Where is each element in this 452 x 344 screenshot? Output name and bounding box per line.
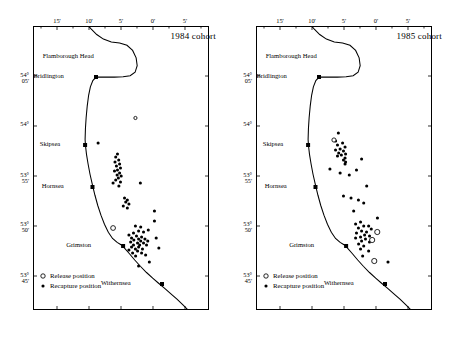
recapture-point — [328, 167, 331, 170]
x-axis-tick-label: 5' — [406, 17, 410, 24]
recapture-point — [127, 202, 130, 205]
release-point — [111, 226, 116, 231]
legend-recapture-label: Recapture position — [50, 282, 102, 289]
recapture-point — [357, 242, 360, 245]
recapture-point — [360, 157, 363, 160]
recapture-point — [137, 264, 140, 267]
recapture-point — [118, 162, 121, 165]
town-marker — [90, 185, 94, 189]
recapture-point — [127, 233, 130, 236]
recapture-point — [141, 247, 144, 250]
recapture-point — [342, 149, 345, 152]
recapture-point — [348, 173, 351, 176]
x-axis-tick-label: 5' — [342, 17, 346, 24]
recapture-point — [148, 260, 151, 263]
x-axis-tick-label: 15' — [53, 17, 61, 24]
x-axis-tick-label: 10' — [308, 17, 316, 24]
recapture-point — [359, 220, 362, 223]
recapture-point — [359, 235, 362, 238]
town-marker — [160, 282, 164, 286]
recapture-point — [340, 153, 343, 156]
recapture-point — [354, 236, 357, 239]
place-label: Skipsea — [40, 140, 61, 147]
legend-release-marker — [264, 274, 268, 278]
y-axis-tick-label-minutes: 45' — [245, 277, 252, 284]
recapture-point — [365, 184, 368, 187]
release-point — [332, 138, 336, 142]
recapture-point — [130, 245, 133, 248]
recapture-point — [153, 219, 156, 222]
recapture-point — [120, 174, 123, 177]
recapture-point — [334, 148, 337, 151]
recapture-point — [362, 224, 365, 227]
recapture-point — [359, 247, 362, 250]
place-label: Withernsea — [324, 279, 354, 286]
recapture-point — [137, 245, 140, 248]
recapture-point — [363, 233, 366, 236]
town-marker — [313, 185, 317, 189]
recapture-point — [360, 229, 363, 232]
recapture-point — [112, 181, 115, 184]
recapture-point — [116, 168, 119, 171]
y-axis-tick-label-minutes: 05' — [245, 77, 252, 84]
legend-release-label: Release position — [50, 272, 95, 279]
recapture-point — [143, 237, 146, 240]
place-label: Flamborough Head — [43, 52, 95, 59]
recapture-point — [122, 204, 125, 207]
x-axis-tick-label: 15' — [276, 17, 284, 24]
release-point — [372, 258, 377, 263]
x-axis-tick-label: 0' — [151, 17, 155, 24]
recapture-point — [139, 225, 142, 228]
legend-recapture-marker — [264, 284, 267, 287]
recapture-point — [153, 209, 156, 212]
recapture-point — [137, 229, 140, 232]
place-label: Hornsea — [42, 182, 64, 189]
x-axis-tick-label: 0' — [374, 17, 378, 24]
coastline — [85, 23, 193, 316]
place-label: Bridlington — [256, 72, 287, 79]
recapture-point — [114, 155, 117, 158]
recapture-point — [357, 226, 360, 229]
recapture-point — [355, 168, 358, 171]
recapture-point — [344, 162, 347, 165]
recapture-point — [129, 240, 132, 243]
figure-container: 1984 cohort 15'10'5'0'5'54°05'54°53°55'5… — [0, 0, 452, 344]
recapture-point — [132, 231, 135, 234]
map-layer: 15'10'5'0'5'54°05'54°53°55'53°50'53°45'F… — [20, 17, 209, 316]
recapture-point — [116, 173, 119, 176]
recapture-point — [367, 224, 370, 227]
recapture-point — [135, 234, 138, 237]
recapture-point — [127, 248, 130, 251]
recapture-point — [132, 238, 135, 241]
recapture-point — [354, 222, 357, 225]
place-label: Skipsea — [263, 140, 284, 147]
recapture-point — [370, 227, 373, 230]
recapture-point — [376, 216, 379, 219]
recapture-point — [368, 234, 371, 237]
recapture-point — [336, 143, 339, 146]
recapture-point — [134, 254, 137, 257]
release-point — [370, 237, 375, 242]
recapture-point — [145, 243, 148, 246]
recapture-point — [115, 164, 118, 167]
recapture-point — [352, 209, 355, 212]
y-axis-tick-label-minutes: 45' — [22, 277, 29, 284]
recapture-point — [341, 141, 344, 144]
recapture-point — [119, 166, 122, 169]
y-axis-tick-label-minutes: 55' — [245, 177, 252, 184]
recapture-point — [119, 180, 122, 183]
place-label: Hornsea — [265, 182, 287, 189]
recapture-point — [134, 224, 137, 227]
y-axis-tick-label-minutes: 05' — [22, 77, 29, 84]
release-point — [134, 116, 137, 119]
y-axis-tick-label-minutes: 50' — [245, 226, 252, 233]
y-axis-tick-label-minutes: 55' — [22, 177, 29, 184]
recapture-point — [142, 241, 145, 244]
place-label: Flamborough Head — [266, 52, 318, 59]
panel-1985-cohort: 1985 cohort 15'10'5'0'5'54°05'54°53°55'5… — [226, 0, 452, 344]
town-marker — [121, 244, 125, 248]
recapture-point — [136, 249, 139, 252]
recapture-point — [118, 171, 121, 174]
recapture-point — [139, 181, 142, 184]
town-marker — [83, 143, 87, 147]
